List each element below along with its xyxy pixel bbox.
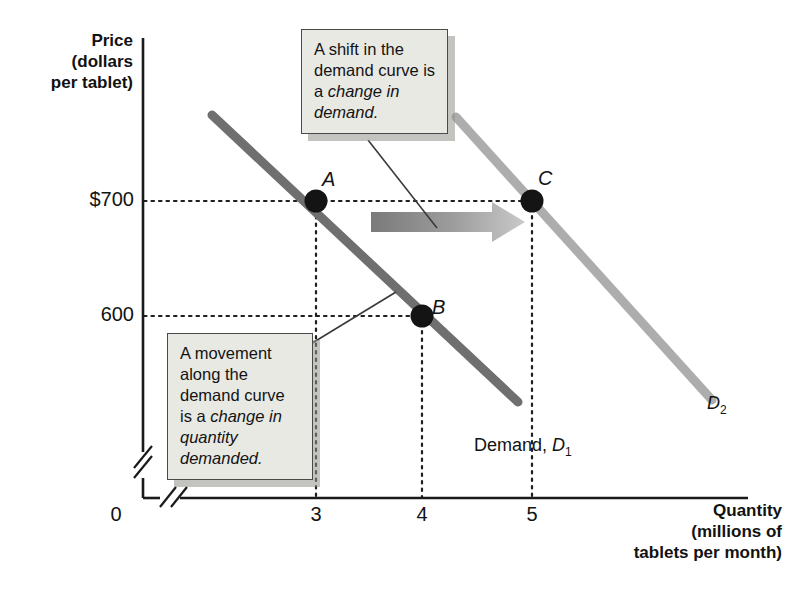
data-point-c [521,190,544,213]
y-axis-title-line-2: (dollars [0,51,133,72]
x-axis-title-line-3: tablets per month) [586,542,782,563]
point-label-a: A [322,168,335,191]
y-axis-title: Price (dollars per tablet) [0,30,133,93]
callout-shift-emphasis: change in demand. [314,82,399,121]
demand-curve-figure: Price (dollars per tablet) Quantity (mil… [0,0,786,601]
y-axis-title-line-1: Price [0,30,133,51]
y-tick-label-600: 600 [62,303,134,326]
point-label-b: B [432,296,445,319]
x-tick-label-4: 4 [402,503,442,526]
curve-label-d1-letter: D [552,435,565,455]
y-axis-title-line-3: per tablet) [0,72,133,93]
data-point-b [411,305,434,328]
curve-label-d1-text: Demand, [474,435,552,455]
data-point-a [305,190,328,213]
point-label-c: C [538,167,552,190]
x-axis-title-line-2: (millions of [586,521,782,542]
curve-label-d2-letter: D [707,393,720,413]
curve-label-d2-subscript: 2 [720,403,727,417]
shift-arrow [371,202,525,242]
x-tick-label-3: 3 [296,503,336,526]
callout-shift-in-demand: A shift in the demand curve is a change … [301,29,448,134]
curve-label-d1-subscript: 1 [565,445,572,459]
curve-label-d1: Demand, D1 [474,435,572,459]
x-axis-title: Quantity (millions of tablets per month) [586,500,782,563]
x-tick-label-5: 5 [512,503,552,526]
y-tick-label-700: $700 [62,188,134,211]
x-tick-label-0: 0 [96,503,136,526]
callout-movement-along-curve: A movement along the demand curve is a c… [167,333,313,480]
x-axis-title-line-1: Quantity [586,500,782,521]
curve-label-d2: D2 [707,393,727,417]
demand-curve-d2 [456,117,712,400]
